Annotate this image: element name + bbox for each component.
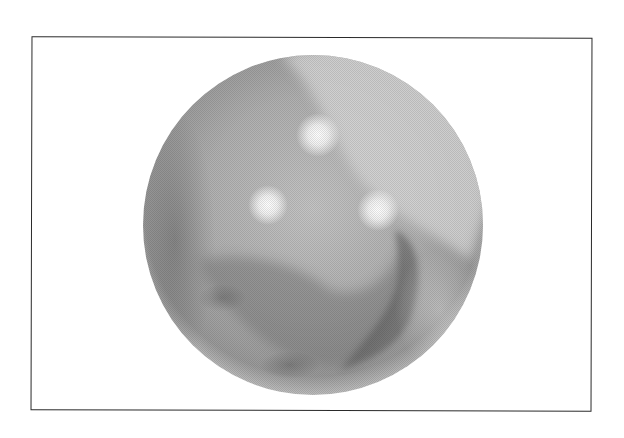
- sphere: [135, 40, 490, 395]
- sphere-illustration: [0, 0, 624, 438]
